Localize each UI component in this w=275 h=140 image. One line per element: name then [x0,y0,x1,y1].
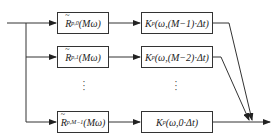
filter-symbol: R [61,117,67,128]
ellipsis-stage2: ··· [173,80,179,92]
kernel-box-m1: Kp(ω,(M−1)·Δt) [141,12,213,34]
ellipsis-stage1: ··· [81,80,87,92]
kernel-argument: (ω,(M−1)·Δt) [155,18,209,29]
kernel-symbol: K [145,18,152,29]
filter-argument: (Mω) [83,117,105,128]
kernel-box-0: Kp(ω,0·Δt) [141,111,213,133]
filter-subscript: p,0 [71,20,79,26]
block-diagram: Rp,0(Mω) Rp,1(Mω) Rp,M−1(Mω) Kp(ω,(M−1)·… [0,0,275,140]
kernel-symbol: K [145,52,152,63]
filter-symbol: R [65,52,71,63]
kernel-symbol: K [156,117,163,128]
kernel-argument: (ω,(M−2)·Δt) [155,52,209,63]
connector-wires [0,0,275,140]
filter-box-r-p0: Rp,0(Mω) [57,12,109,34]
filter-subscript: p,M−1 [67,119,84,125]
kernel-box-m2: Kp(ω,(M−2)·Δt) [141,46,213,68]
kernel-argument: (ω,0·Δt) [166,117,198,128]
filter-subscript: p,1 [71,54,79,60]
filter-argument: (Mω) [79,18,101,29]
filter-box-r-pm1: Rp,M−1(Mω) [57,111,109,133]
filter-box-r-p1: Rp,1(Mω) [57,46,109,68]
filter-symbol: R [65,18,71,29]
filter-argument: (Mω) [79,52,101,63]
